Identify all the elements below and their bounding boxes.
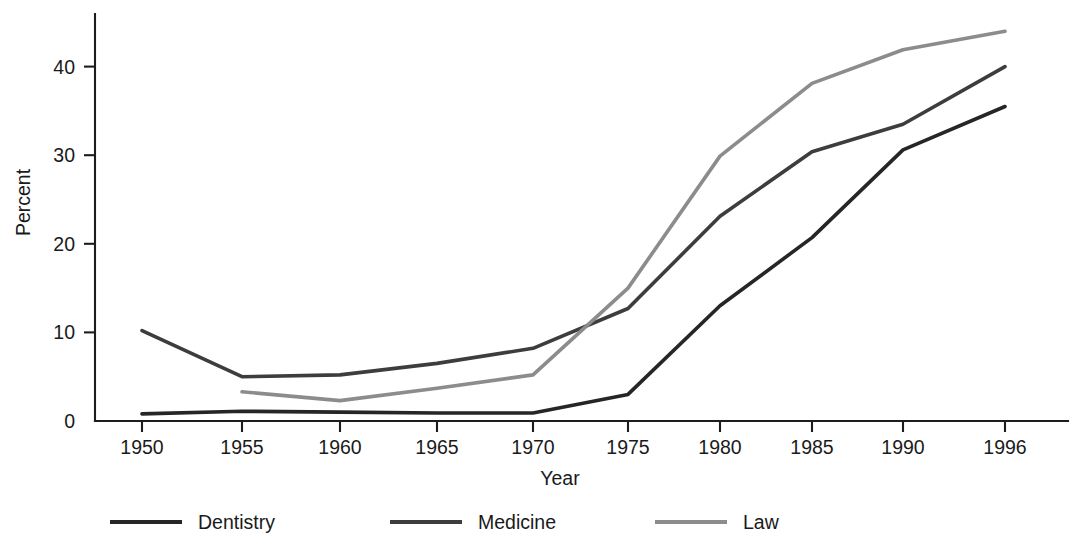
chart-canvas: 1950195519601965197019751980198519901996… <box>0 0 1079 553</box>
y-tick-label: 10 <box>53 321 75 343</box>
x-tick-label: 1975 <box>606 436 650 458</box>
x-tick-label: 1985 <box>790 436 834 458</box>
legend-label-medicine: Medicine <box>478 511 556 533</box>
series-line-dentistry <box>142 107 1005 414</box>
x-axis-title: Year <box>540 467 580 489</box>
series-line-medicine <box>142 67 1005 377</box>
series-lines <box>142 31 1005 414</box>
x-tick-label: 1996 <box>983 436 1026 458</box>
y-tick-label: 0 <box>64 410 75 432</box>
line-chart: 1950195519601965197019751980198519901996… <box>0 0 1079 553</box>
axes <box>95 14 1068 421</box>
x-tick-label: 1950 <box>120 436 164 458</box>
y-tick-label: 30 <box>53 144 75 166</box>
axis-ticks <box>84 67 1005 432</box>
legend-label-law: Law <box>743 511 780 533</box>
y-axis-title: Percent <box>12 168 34 236</box>
y-axis-tick-labels: 010203040 <box>53 56 75 432</box>
x-tick-label: 1955 <box>220 436 264 458</box>
x-axis-tick-labels: 1950195519601965197019751980198519901996 <box>120 436 1026 458</box>
y-tick-label: 20 <box>53 233 75 255</box>
x-tick-label: 1970 <box>511 436 555 458</box>
y-tick-label: 40 <box>53 56 75 78</box>
series-line-law <box>242 31 1005 400</box>
chart-legend: DentistryMedicineLaw <box>110 511 780 533</box>
axis-titles: PercentYear <box>12 168 580 489</box>
x-tick-label: 1980 <box>698 436 742 458</box>
legend-label-dentistry: Dentistry <box>198 511 275 533</box>
x-tick-label: 1965 <box>415 436 459 458</box>
x-tick-label: 1990 <box>881 436 925 458</box>
x-tick-label: 1960 <box>318 436 362 458</box>
